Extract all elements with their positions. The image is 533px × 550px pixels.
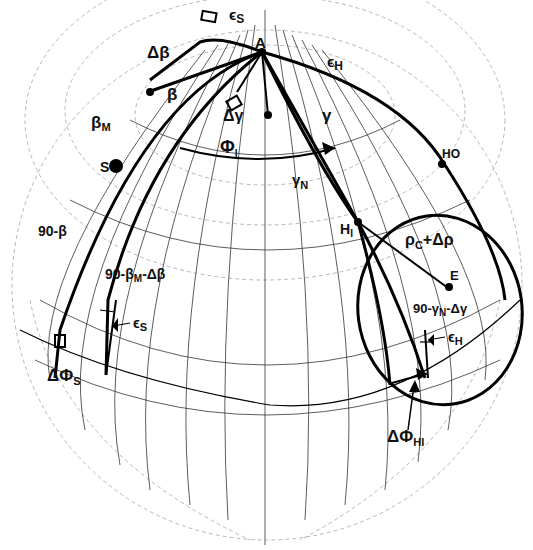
label-s: S [100,159,109,175]
label-beta: β [167,85,177,104]
label-epsilon-s-top: ϵS [229,6,244,26]
label-phi-i: ΦI [220,137,238,159]
label-90-beta: 90-β [38,223,67,239]
point-ho [438,160,446,168]
label-epsilon-h-low: ϵH [448,329,463,347]
label-e: E [450,268,459,283]
label-hi: HI [340,221,353,239]
label-gamma-n: γN [292,171,308,191]
label-delta-beta: Δβ [147,43,170,62]
delta-phi-hi-leader-arrowhead [409,380,420,392]
label-gamma: γ [322,106,332,125]
great-circle-arcs [55,40,505,385]
label-delta-phi-s: ΔΦS [47,366,81,387]
phi-i-arrowhead [322,142,335,155]
celestial-sphere-diagram: A S HI HO E ϵS Δβ ϵH β βM Δγ γ ΦI γN 90-… [0,0,533,550]
label-delta-gamma: Δγ [223,107,244,124]
point-e [445,283,453,291]
label-90-gamma-n-delta-gamma: 90-γN-Δγ [413,301,468,318]
label-delta-phi-hi: ΔΦHI [387,427,424,448]
right-angle-marker-top [201,11,216,22]
point-hi [354,218,362,226]
label-ho: HO [442,147,460,161]
label-a: A [255,34,266,51]
label-90-beta-m-delta-beta: 90-βM-Δβ [105,266,166,284]
label-epsilon-s-low: ϵS [133,315,147,333]
point-beta [146,88,154,96]
label-epsilon-h-top: ϵH [327,53,343,73]
point-delta-gamma [264,111,272,119]
label-rho-c-plus-delta-rho: ρC+Δρ [405,231,454,251]
epsilon-h-arrowhead [428,334,434,346]
label-beta-m: βM [91,113,111,133]
point-s [109,159,123,173]
